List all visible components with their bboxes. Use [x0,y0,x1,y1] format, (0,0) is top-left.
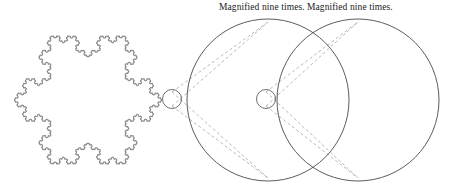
guide-line-2 [172,106,268,178]
koch-snowflake-outline [14,36,162,164]
figure-canvas: Magnified nine times. Magnified nine tim… [0,0,451,189]
guide-line-8 [266,22,358,106]
guide-line-1 [172,22,268,92]
koch-figure-svg [0,0,451,189]
magnification-circle-right [277,19,439,181]
magnification-guide-lines [172,22,358,178]
guide-line-7 [266,92,358,178]
magnification-circle-middle [187,19,349,181]
koch-curve-magnified-1 [0,0,178,189]
koch-snowflake [14,36,162,164]
magnified-koch-curve-middle [0,0,178,189]
